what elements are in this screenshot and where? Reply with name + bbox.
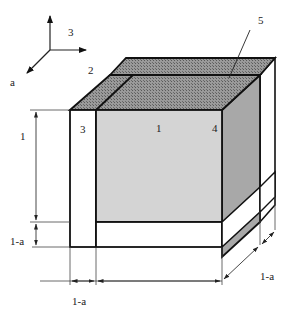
top-back-strip [110,58,275,75]
dim-depth-right: 1-a [260,270,274,282]
label-top-slab: 2 [88,64,94,76]
dim-height-main: 1 [20,130,26,142]
axis-diagonal-label: a [10,76,15,88]
axis-vertical-label: 3 [68,26,74,38]
dim-width-left: 1-a [72,295,86,307]
vertical-dimensions: 1 1-a [10,110,70,247]
dimension-arrow-icon [262,232,274,244]
horizontal-dimensions: 1-a [40,247,222,307]
label-left-slab: 3 [80,123,86,135]
cube-diagram: 3 a 2 3 1 4 5 1 1-a 1-a [0,0,290,314]
label-right-edge: 4 [212,122,218,134]
axis-triad: 3 a [10,16,86,88]
axis-diagonal-arrow-icon [27,50,50,73]
bottom-slab [96,222,222,247]
label-front-face: 1 [156,122,162,134]
dimension-arrow-icon [224,247,258,279]
label-top-region: 5 [258,14,264,26]
dim-height-bottom: 1-a [10,235,24,247]
